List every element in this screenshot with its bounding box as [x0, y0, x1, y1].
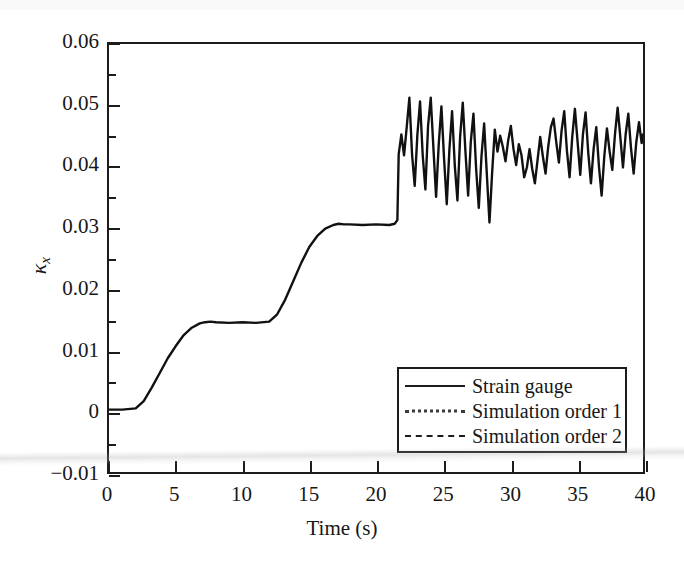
x-tick-label: 40	[615, 484, 675, 505]
y-tick-major	[109, 105, 120, 107]
series-strain-gauge-line	[109, 98, 643, 410]
y-tick-major	[109, 475, 120, 477]
legend-swatch-solid-line-icon	[405, 379, 465, 393]
y-tick-minor	[109, 136, 116, 138]
y-tick-label: 0.01	[7, 340, 99, 361]
y-tick-label: 0.05	[7, 93, 99, 114]
y-axis-title: κx	[26, 240, 53, 292]
y-tick-major	[109, 352, 120, 354]
x-tick-major	[310, 461, 312, 472]
y-tick-minor	[109, 321, 116, 323]
y-tick-minor	[109, 259, 116, 261]
x-tick-major	[377, 461, 379, 472]
x-tick-label: 35	[548, 484, 608, 505]
x-tick-label: 5	[144, 484, 204, 505]
y-axis-title-subscript: x	[37, 257, 53, 264]
legend-item-strain-gauge: Strain gauge	[405, 373, 619, 398]
y-tick-major	[109, 43, 120, 45]
x-tick-label: 15	[279, 484, 339, 505]
x-tick-major	[243, 461, 245, 472]
x-tick-major	[579, 461, 581, 472]
y-tick-label: −0.01	[7, 463, 99, 484]
y-tick-label: 0.06	[7, 31, 99, 52]
y-tick-label: 0.04	[7, 154, 99, 175]
y-tick-label: 0.03	[7, 216, 99, 237]
y-tick-label: 0	[7, 401, 99, 422]
y-tick-major	[109, 413, 120, 415]
legend-item-simulation-order-1: Simulation order 1	[405, 398, 619, 423]
chart-figure: −0.0100.010.020.030.040.050.06 051015202…	[0, 0, 684, 567]
y-tick-minor	[109, 74, 116, 76]
scan-artifact-top	[0, 0, 684, 10]
legend-swatch-dotted-line-icon	[405, 404, 465, 418]
legend: Strain gauge Simulation order 1 Simulati…	[397, 367, 627, 453]
x-tick-major	[108, 461, 110, 472]
y-tick-minor	[109, 382, 116, 384]
x-tick-major	[512, 461, 514, 472]
y-axis-title-symbol: κ	[26, 264, 51, 275]
x-tick-label: 10	[212, 484, 272, 505]
x-tick-major	[175, 461, 177, 472]
legend-label-simulation-order-2: Simulation order 2	[472, 426, 622, 446]
x-axis-title: Time (s)	[0, 516, 684, 541]
y-tick-minor	[109, 444, 116, 446]
legend-swatch-dashed-line-icon	[405, 429, 465, 443]
x-tick-major	[444, 461, 446, 472]
x-tick-label: 0	[77, 484, 137, 505]
legend-item-simulation-order-2: Simulation order 2	[405, 423, 619, 448]
x-tick-major	[646, 461, 648, 472]
legend-label-simulation-order-1: Simulation order 1	[472, 401, 622, 421]
x-tick-label: 20	[346, 484, 406, 505]
y-tick-major	[109, 228, 120, 230]
y-tick-major	[109, 166, 120, 168]
y-tick-minor	[109, 197, 116, 199]
legend-label-strain-gauge: Strain gauge	[472, 376, 573, 396]
x-tick-label: 30	[481, 484, 541, 505]
x-tick-label: 25	[413, 484, 473, 505]
y-tick-major	[109, 290, 120, 292]
